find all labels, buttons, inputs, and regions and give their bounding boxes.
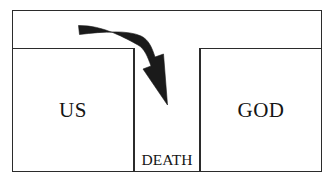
cell-death: DEATH (134, 48, 200, 172)
cell-god-label: GOD (238, 100, 285, 121)
diagram-canvas: US DEATH GOD (0, 0, 333, 180)
cell-us-label: US (59, 100, 87, 121)
cell-god: GOD (200, 48, 322, 172)
cell-us: US (12, 48, 134, 172)
cell-death-label: DEATH (142, 152, 193, 173)
